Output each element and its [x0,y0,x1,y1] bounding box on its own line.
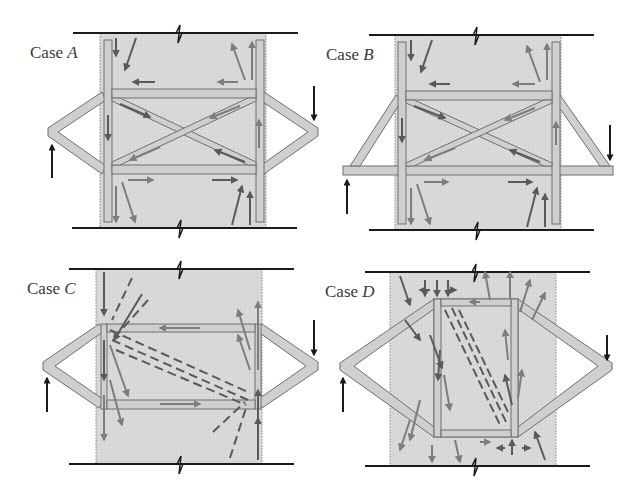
case-d-label: Case D [325,282,375,302]
case-a-label: Case A [30,43,78,63]
case-a-panel [48,25,318,238]
diagram-canvas [0,0,634,498]
figure-stage: Case A Case B Case C Case D [0,0,634,498]
case-d-panel [340,264,612,476]
case-b-label: Case B [326,45,374,65]
case-c-panel [43,261,318,474]
case-b-panel [343,27,613,240]
case-c-label: Case C [27,279,76,299]
